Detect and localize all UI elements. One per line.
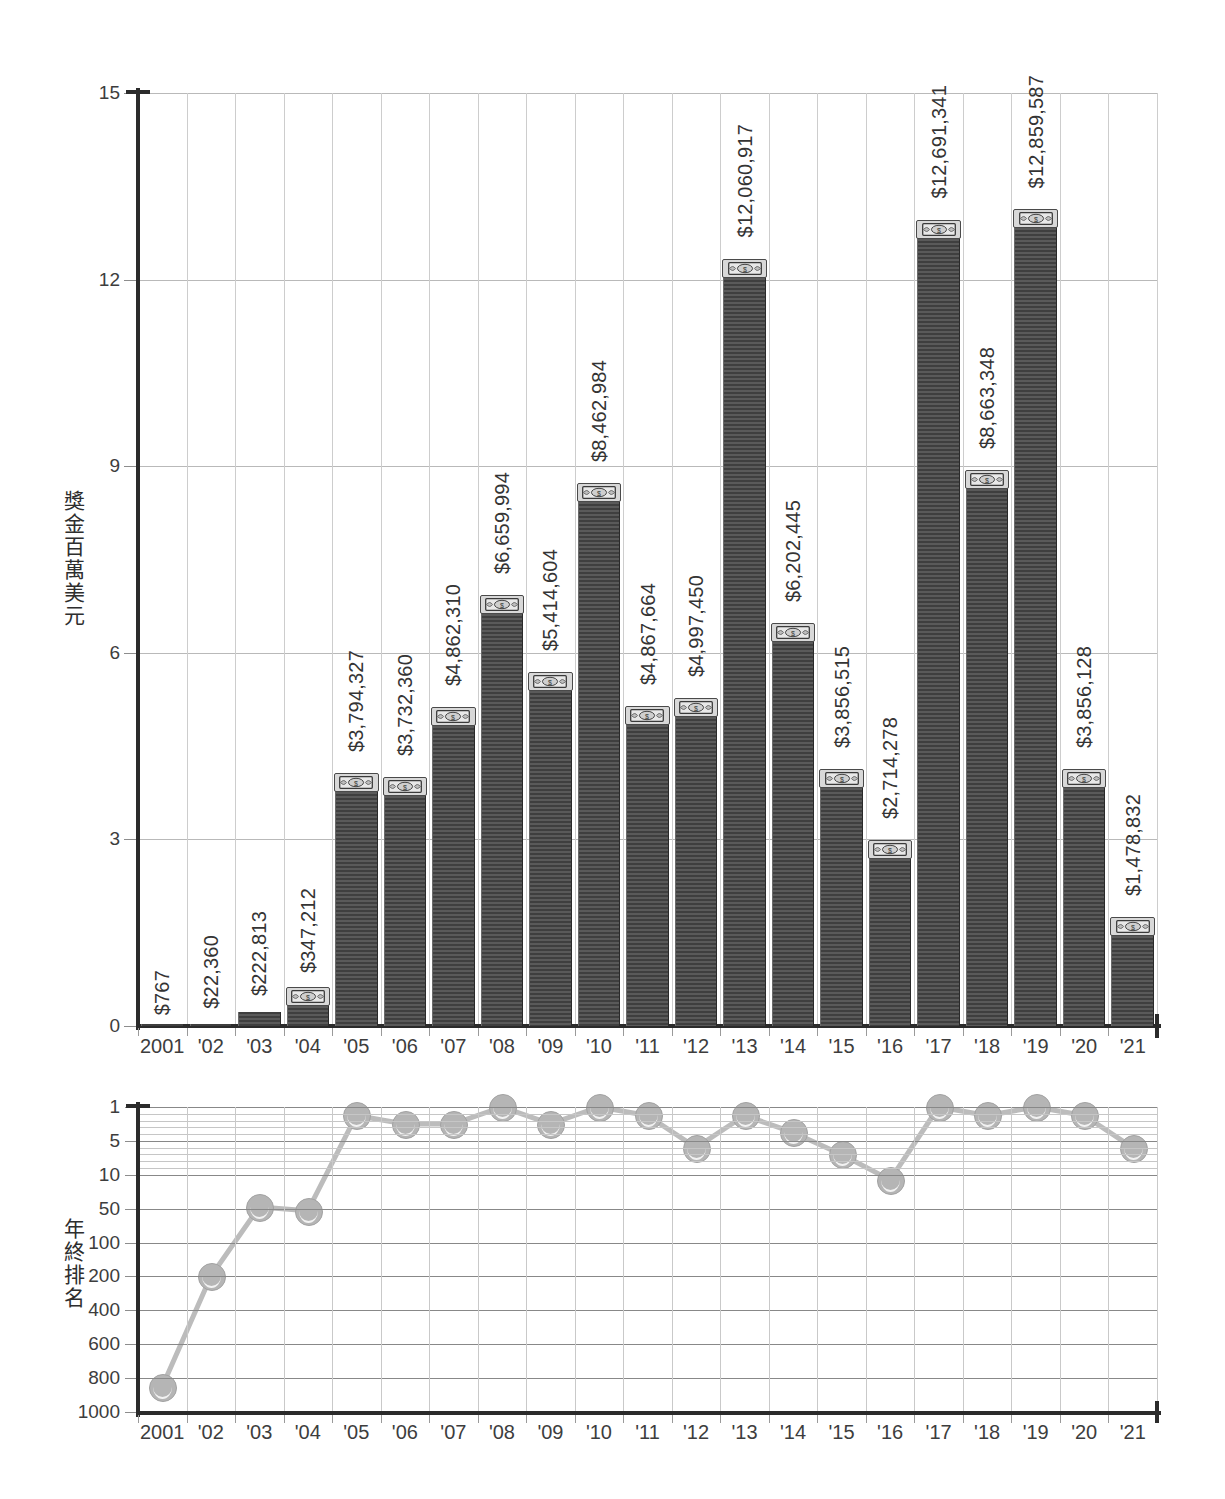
bar-cap-banknote-icon: $ bbox=[528, 672, 573, 691]
banknote-icon: $ bbox=[825, 772, 859, 785]
rank-gridline-vertical bbox=[575, 1107, 576, 1412]
svg-text:$: $ bbox=[1131, 924, 1135, 931]
bar-gridline-vertical bbox=[381, 93, 382, 1026]
bar: $ bbox=[675, 715, 718, 1026]
bar: $ bbox=[335, 790, 378, 1026]
bar-cap-banknote-icon: $ bbox=[334, 773, 379, 792]
svg-text:$: $ bbox=[646, 713, 650, 720]
bar-cap-banknote-icon: $ bbox=[480, 595, 525, 614]
bar-value-label: $3,794,327 bbox=[345, 650, 368, 752]
bar: $ bbox=[1111, 934, 1154, 1026]
bar-gridline-vertical bbox=[284, 93, 285, 1026]
bar-x-tick-mark bbox=[817, 1028, 818, 1036]
svg-text:$: $ bbox=[500, 601, 504, 608]
banknote-icon: $ bbox=[970, 473, 1004, 486]
rank-data-point-marker bbox=[1023, 1094, 1051, 1122]
svg-text:$: $ bbox=[743, 265, 747, 272]
bar-gridline-vertical bbox=[1157, 93, 1158, 1026]
rank-gridline-vertical bbox=[769, 1107, 770, 1412]
tennis-ball-seam bbox=[202, 1276, 221, 1288]
bar-gridline-vertical bbox=[963, 93, 964, 1026]
rank-gridline-major bbox=[138, 1378, 1157, 1379]
svg-text:$: $ bbox=[548, 679, 552, 686]
bar-x-tick-mark bbox=[1108, 1028, 1109, 1036]
rank-x-tick-mark bbox=[817, 1415, 818, 1423]
bar-gridline-vertical bbox=[769, 93, 770, 1026]
bar-x-tick-mark bbox=[138, 1028, 139, 1036]
rank-gridline-vertical bbox=[1011, 1107, 1012, 1412]
rank-gridline-minor bbox=[138, 1148, 1157, 1149]
bar-x-tick-label: '21 bbox=[1099, 1035, 1167, 1058]
bar: $ bbox=[287, 1004, 330, 1026]
rank-gridline-major bbox=[138, 1209, 1157, 1210]
rank-data-point-marker bbox=[586, 1094, 614, 1122]
rank-y-tick-label: 800 bbox=[66, 1367, 120, 1389]
rank-chart-y-axis-cap bbox=[126, 1104, 150, 1108]
bar: $ bbox=[626, 723, 669, 1026]
bar-gridline-vertical bbox=[866, 93, 867, 1026]
bar-gridline-horizontal bbox=[138, 280, 1157, 281]
bar-gridline-vertical bbox=[817, 93, 818, 1026]
bar-x-tick-mark bbox=[672, 1028, 673, 1036]
rank-gridline-major bbox=[138, 1310, 1157, 1311]
svg-text:$: $ bbox=[306, 994, 310, 1001]
bar-cap-banknote-icon: $ bbox=[1110, 917, 1155, 936]
rank-gridline-vertical bbox=[623, 1107, 624, 1412]
bar-x-tick-mark bbox=[332, 1028, 333, 1036]
rank-x-tick-mark bbox=[623, 1415, 624, 1423]
bar-x-tick-mark bbox=[575, 1028, 576, 1036]
rank-data-point-marker bbox=[489, 1094, 517, 1122]
bar-y-tick-mark bbox=[124, 280, 136, 281]
bar-cap-banknote-icon: $ bbox=[286, 987, 331, 1006]
rank-chart-x-axis-line bbox=[136, 1411, 1161, 1415]
bar-y-tick-label: 0 bbox=[86, 1015, 120, 1037]
rank-y-tick-label: 5 bbox=[66, 1130, 120, 1152]
rank-x-tick-label: '21 bbox=[1099, 1421, 1167, 1444]
bar-y-tick-mark bbox=[124, 839, 136, 840]
bar-cap-banknote-icon: $ bbox=[577, 483, 622, 502]
bar: $ bbox=[481, 612, 524, 1026]
bar bbox=[238, 1012, 281, 1026]
rank-x-tick-mark bbox=[769, 1415, 770, 1423]
rank-x-tick-mark bbox=[1060, 1415, 1061, 1423]
rank-gridline-minor bbox=[138, 1121, 1157, 1122]
rank-y-tick-mark bbox=[125, 1276, 136, 1277]
svg-text:$: $ bbox=[451, 713, 455, 720]
rank-x-tick-mark bbox=[526, 1415, 527, 1423]
bar: $ bbox=[578, 500, 621, 1026]
prize-money-bar-chart: 獎金百萬美元 03691215 $767$22,360$222,813$$347… bbox=[0, 0, 1225, 1080]
bar-gridline-vertical bbox=[429, 93, 430, 1026]
bar: $ bbox=[384, 794, 427, 1026]
rank-data-point-marker bbox=[1120, 1135, 1148, 1163]
svg-text:$: $ bbox=[1034, 216, 1038, 223]
svg-text:$: $ bbox=[985, 477, 989, 484]
tennis-ball-seam bbox=[153, 1387, 172, 1399]
bar-gridline-vertical bbox=[914, 93, 915, 1026]
svg-text:$: $ bbox=[791, 630, 795, 637]
bar-cap-banknote-icon: $ bbox=[868, 840, 913, 859]
svg-text:$: $ bbox=[597, 489, 601, 496]
svg-text:$: $ bbox=[354, 780, 358, 787]
rank-y-tick-label: 200 bbox=[66, 1265, 120, 1287]
rank-x-tick-mark bbox=[429, 1415, 430, 1423]
rank-chart-y-axis-line bbox=[136, 1102, 140, 1417]
bar-value-label: $8,663,348 bbox=[976, 347, 999, 449]
bar-x-tick-mark bbox=[914, 1028, 915, 1036]
banknote-icon: $ bbox=[388, 780, 422, 793]
bar-cap-banknote-icon: $ bbox=[1062, 769, 1107, 788]
rank-gridline-vertical bbox=[817, 1107, 818, 1412]
bar-y-tick-mark bbox=[124, 1026, 136, 1027]
rank-gridline-minor bbox=[138, 1168, 1157, 1169]
bar-gridline-vertical bbox=[672, 93, 673, 1026]
rank-y-tick-mark bbox=[125, 1378, 136, 1379]
bar-gridline-horizontal bbox=[138, 93, 1157, 94]
bar-cap-banknote-icon: $ bbox=[722, 259, 767, 278]
banknote-icon: $ bbox=[1067, 772, 1101, 785]
bar-value-label: $5,414,604 bbox=[539, 549, 562, 651]
rank-x-tick-mark bbox=[1011, 1415, 1012, 1423]
rank-y-tick-label: 400 bbox=[66, 1299, 120, 1321]
bar-cap-banknote-icon: $ bbox=[819, 769, 864, 788]
bar bbox=[190, 1024, 233, 1026]
rank-y-tick-label: 1000 bbox=[66, 1401, 120, 1423]
bar-y-tick-label: 3 bbox=[86, 828, 120, 850]
